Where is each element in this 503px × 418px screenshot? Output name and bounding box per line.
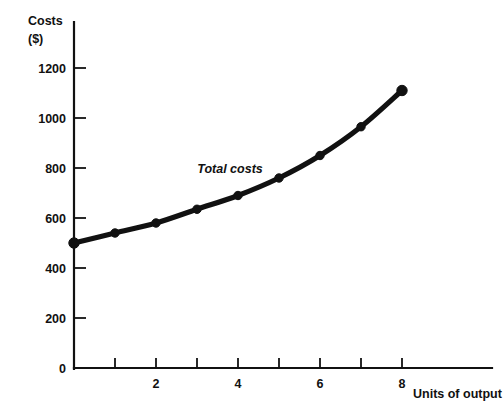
chart-screenshot: 1200 1000 800 600 400 200 0 2 4 6 8 Cost… (0, 0, 503, 418)
data-point (316, 151, 324, 159)
data-point (152, 219, 160, 227)
y-tick-label-200: 200 (45, 312, 66, 326)
data-point (193, 205, 201, 213)
data-point (275, 174, 283, 182)
total-cost-chart: 1200 1000 800 600 400 200 0 2 4 6 8 Cost… (0, 0, 503, 418)
data-point (69, 238, 79, 248)
y-tick-label-1000: 1000 (38, 112, 66, 126)
total-costs-annotation: Total costs (197, 162, 263, 176)
x-axis-title-label: Units of output (413, 387, 503, 401)
x-tick-label-2: 2 (153, 377, 160, 391)
y-tick-label-600: 600 (45, 212, 66, 226)
x-axis-title: Units of output (413, 387, 503, 401)
x-tick-label-6: 6 (317, 377, 324, 391)
y-tick-label-400: 400 (45, 262, 66, 276)
y-tick-label-0: 0 (59, 362, 66, 376)
y-axis-title-line1: Costs (28, 14, 63, 28)
data-point (357, 123, 365, 131)
data-point (234, 191, 242, 199)
x-tick-label-8: 8 (399, 377, 406, 391)
data-point (397, 85, 407, 95)
chart-background (0, 0, 503, 418)
y-tick-label-1200: 1200 (38, 62, 66, 76)
y-axis-title-line2: ($) (28, 32, 43, 46)
data-point (111, 229, 119, 237)
x-tick-label-4: 4 (235, 377, 242, 391)
y-tick-label-800: 800 (45, 162, 66, 176)
